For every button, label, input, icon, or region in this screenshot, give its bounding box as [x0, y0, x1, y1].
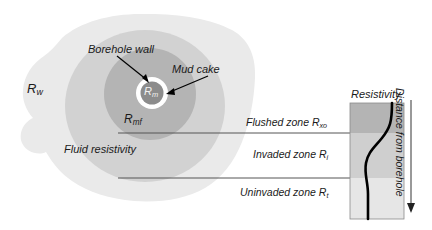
figure-canvas: Borehole wall Mud cake Rw Rm Rmf Fluid r…	[0, 0, 432, 230]
diagram-graphics	[0, 0, 432, 230]
uninvaded-label-text: Uninvaded zone R	[240, 186, 326, 198]
flushed-label-subscript: xo	[320, 122, 328, 130]
label-mud-resistivity: Rm	[144, 86, 158, 97]
invaded-label-text: Invaded zone R	[253, 148, 327, 160]
rw-symbol: R	[27, 81, 36, 96]
chart-band-label-invaded: Invaded zone Ri	[253, 149, 328, 160]
rm-symbol: R	[144, 85, 152, 97]
rmf-symbol: R	[124, 112, 133, 126]
label-fluid-resistivity: Fluid resistivity	[64, 144, 136, 155]
flushed-label-text: Flushed zone R	[246, 116, 320, 128]
annotation-mud-cake: Mud cake	[172, 64, 220, 75]
rm-subscript: m	[152, 90, 158, 99]
annotation-borehole-wall: Borehole wall	[88, 44, 154, 55]
chart-band-label-uninvaded: Uninvaded zone Rt	[240, 187, 328, 198]
label-mud-filtrate-resistivity: Rmf	[124, 113, 142, 125]
label-formation-water-resistivity: Rw	[27, 82, 43, 95]
rmf-subscript: mf	[133, 118, 142, 127]
chart-band-label-flushed: Flushed zone Rxo	[246, 117, 327, 128]
rw-subscript: w	[36, 87, 42, 97]
invaded-label-subscript: i	[327, 154, 329, 162]
distance-axis-arrow	[407, 100, 415, 213]
chart-axis-label-distance: Distance from borehole	[395, 88, 406, 197]
